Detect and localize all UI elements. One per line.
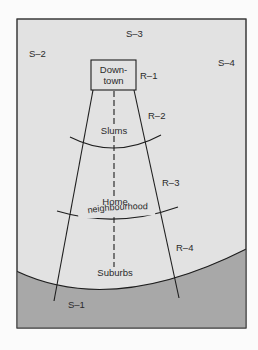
slums-label: Slums — [101, 125, 128, 136]
downtown-label-line2: town — [103, 75, 123, 86]
urban-zone-diagram: S–3 S–2 S–4 S–1 R–1 R–2 R–3 R–4 Down- to… — [0, 0, 258, 350]
ring-label-r4: R–4 — [176, 242, 193, 253]
sector-label-s3: S–3 — [126, 28, 143, 39]
ring-label-r2: R–2 — [148, 110, 165, 121]
sector-label-s1: S–1 — [68, 299, 85, 310]
suburbs-label: Suburbs — [97, 267, 133, 278]
sector-label-s4: S–4 — [218, 57, 235, 68]
ring-label-r1: R–1 — [140, 70, 157, 81]
sector-label-s2: S–2 — [29, 48, 46, 59]
ring-label-r3: R–3 — [162, 177, 179, 188]
downtown-label-line1: Down- — [100, 64, 127, 75]
